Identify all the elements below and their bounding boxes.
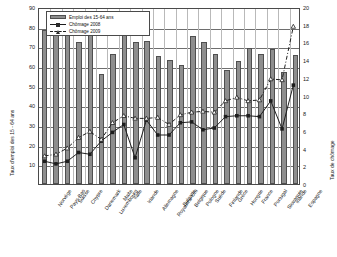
y-tick-label-left: 40 (19, 103, 35, 109)
data-point-marker-square (212, 126, 216, 130)
data-point-marker-triangle (76, 135, 80, 139)
data-point-marker-triangle (42, 154, 46, 158)
data-point-marker-triangle (156, 115, 160, 119)
data-point-marker-square (122, 123, 126, 127)
y-axis-right-title: Taux de chômage (329, 141, 335, 180)
y-tick-label-right: 6 (303, 129, 321, 135)
employment-unemployment-chart: Taux d'emploi des 15 - 64 ans Taux de ch… (0, 0, 337, 257)
y-tick-label-right: 16 (303, 40, 321, 46)
data-point-marker-square (77, 151, 81, 155)
data-point-marker-triangle (88, 129, 92, 133)
y-tick-label-right: 8 (303, 111, 321, 117)
y-tick-label-right: 18 (303, 23, 321, 29)
y-tick-label-left: 10 (19, 162, 35, 168)
data-point-marker-triangle (110, 121, 114, 125)
data-point-marker-square (43, 159, 47, 163)
data-point-marker-square (65, 159, 69, 163)
y-tick-label-right: 12 (303, 76, 321, 82)
data-point-marker-square (179, 121, 183, 125)
data-point-marker-triangle (246, 99, 250, 103)
legend-label-chomage-2009: Chômage 2009 (69, 29, 100, 34)
y-axis-left-title: Taux d'emploi des 15 - 64 ans (9, 110, 15, 176)
data-point-marker-triangle (280, 78, 284, 82)
y-tick-label-right: 10 (303, 94, 321, 100)
y-tick-label-right: 20 (303, 5, 321, 11)
bar-key-icon (50, 15, 66, 19)
y-tick-label-left: 90 (19, 5, 35, 11)
data-point-marker-triangle (178, 113, 182, 117)
line-triangle-key-icon (50, 29, 66, 34)
y-tick-label-left: 70 (19, 44, 35, 50)
y-tick-label-right: 4 (303, 147, 321, 153)
legend-item-chomage-2009: Chômage 2009 (50, 28, 146, 35)
y-tick-label-right: 14 (303, 58, 321, 64)
data-point-marker-triangle (189, 110, 193, 114)
x-tick-label: Irlande (146, 188, 160, 204)
legend-item-chomage-2008: Chômage 2008 (50, 21, 146, 28)
legend-label-emploi: Emploi des 15-64 ans (69, 15, 113, 20)
data-point-marker-square (167, 133, 171, 137)
data-point-marker-triangle (291, 24, 295, 28)
data-point-marker-square (201, 128, 205, 132)
data-point-marker-triangle (122, 114, 126, 118)
data-point-marker-triangle (201, 109, 205, 113)
data-point-marker-square (235, 114, 239, 118)
y-tick-label-left: 80 (19, 25, 35, 31)
y-tick-label-right: 2 (303, 164, 321, 170)
data-point-marker-square (133, 156, 137, 160)
line-square-key-icon (50, 22, 66, 27)
y-tick-label-left: 20 (19, 143, 35, 149)
chart-legend: Emploi des 15-64 ans Chômage 2008 Chômag… (46, 11, 150, 36)
y-tick-label-left: 30 (19, 123, 35, 129)
data-point-marker-square (224, 115, 228, 119)
x-tick-label: Espagne (307, 188, 324, 208)
y-tick-label-left: 50 (19, 84, 35, 90)
x-tick-label: Chypre (89, 188, 104, 205)
y-tick-label-left: 60 (19, 64, 35, 70)
data-point-marker-triangle (223, 99, 227, 103)
data-point-marker-square (258, 115, 262, 119)
data-point-marker-square (156, 133, 160, 137)
data-point-marker-triangle (257, 98, 261, 102)
data-point-marker-square (88, 152, 92, 156)
data-point-marker-square (280, 127, 284, 131)
data-point-marker-triangle (65, 146, 69, 150)
data-point-marker-square (111, 131, 115, 135)
data-point-marker-square (190, 120, 194, 124)
data-point-marker-triangle (133, 116, 137, 120)
data-point-marker-triangle (144, 116, 148, 120)
data-point-marker-square (54, 162, 58, 166)
legend-item-emploi: Emploi des 15-64 ans (50, 14, 146, 21)
data-point-marker-triangle (269, 77, 273, 81)
legend-label-chomage-2008: Chômage 2008 (69, 22, 100, 27)
x-tick-label: Allemagne (161, 188, 180, 212)
data-point-marker-square (269, 99, 273, 103)
data-point-marker-triangle (54, 152, 58, 156)
data-point-marker-square (246, 114, 250, 118)
data-point-marker-square (292, 83, 296, 87)
data-point-marker-triangle (235, 95, 239, 99)
